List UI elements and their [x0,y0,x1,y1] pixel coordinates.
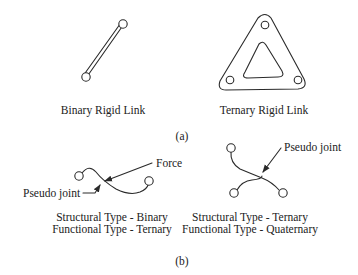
joint-circle [226,76,234,84]
joint-circle [227,144,235,152]
part-b-label: (b) [175,255,189,268]
joint-circle [261,21,269,29]
pseudo-joint-label-left: Pseudo joint [23,187,81,200]
joint-circle [279,189,287,197]
joint-circle [75,172,83,180]
part-a-label: (a) [176,130,189,143]
joint-circle [230,189,238,197]
ternary-rigid-link-drawing [219,15,305,91]
pseudo-joint-arrow [263,148,281,172]
compliant-links-diagram: Binary Rigid Link Ternary Rigid Link (a)… [0,0,358,275]
binary-link-caption: Binary Rigid Link [61,104,146,117]
left-functional-type: Functional Type - Ternary [52,223,172,236]
pseudo-joint-arrow [83,185,100,193]
joint-circle [294,76,302,84]
pseudo-joint-label-right: Pseudo joint [284,141,342,154]
joint-circle [82,73,90,81]
binary-rigid-link-drawing [82,20,127,81]
joint-circle [119,20,127,28]
compliant-ternary-link-drawing [227,144,287,197]
force-arrow [105,163,152,181]
right-functional-type: Functional Type - Quaternary [182,223,318,236]
force-label: Force [156,157,182,169]
joint-circle [145,177,153,185]
compliant-binary-link-drawing [75,163,153,193]
ternary-link-caption: Ternary Rigid Link [220,104,309,117]
